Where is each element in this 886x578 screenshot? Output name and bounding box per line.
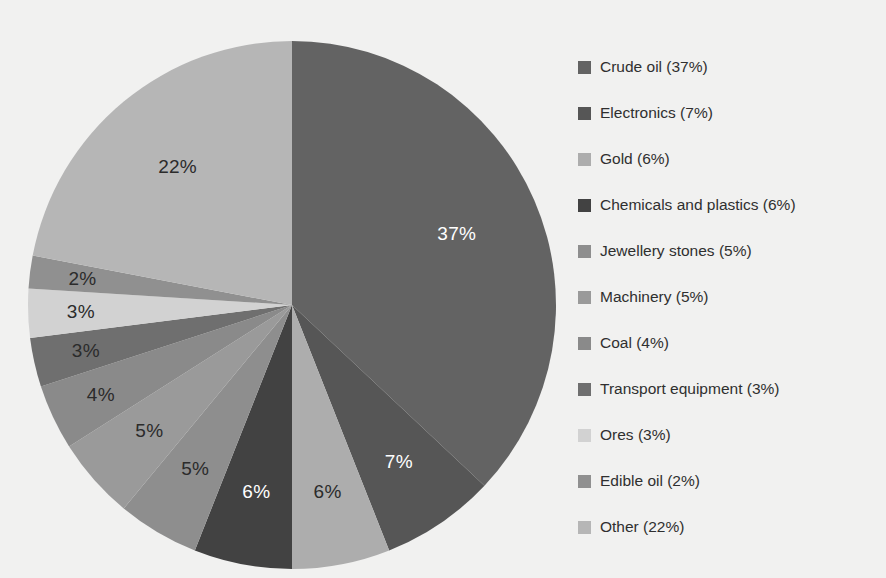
legend-item[interactable]: Electronics (7%) <box>578 90 878 136</box>
pie-slice-label: 3% <box>67 301 95 322</box>
legend-item[interactable]: Coal (4%) <box>578 320 878 366</box>
legend-item-label: Crude oil (37%) <box>600 59 708 75</box>
legend-swatch-icon <box>578 475 591 488</box>
legend-swatch-icon <box>578 337 591 350</box>
legend-item[interactable]: Jewellery stones (5%) <box>578 228 878 274</box>
legend-item[interactable]: Machinery (5%) <box>578 274 878 320</box>
legend-item[interactable]: Ores (3%) <box>578 412 878 458</box>
legend-item[interactable]: Transport equipment (3%) <box>578 366 878 412</box>
legend-swatch-icon <box>578 199 591 212</box>
pie-slice-label: 6% <box>242 481 270 502</box>
legend-item[interactable]: Other (22%) <box>578 504 878 550</box>
legend-swatch-icon <box>578 383 591 396</box>
pie-slice-label: 6% <box>314 481 342 502</box>
pie-slice-label: 5% <box>181 458 209 479</box>
pie-slice-label: 2% <box>68 268 96 289</box>
legend-item-label: Other (22%) <box>600 519 684 535</box>
legend-item-label: Machinery (5%) <box>600 289 709 305</box>
pie-slice-label: 22% <box>158 156 197 177</box>
legend-swatch-icon <box>578 153 591 166</box>
legend-item[interactable]: Gold (6%) <box>578 136 878 182</box>
legend-item-label: Jewellery stones (5%) <box>600 243 752 259</box>
legend-item-label: Transport equipment (3%) <box>600 381 779 397</box>
legend-swatch-icon <box>578 291 591 304</box>
pie-slice-label: 3% <box>72 340 100 361</box>
legend-swatch-icon <box>578 245 591 258</box>
legend-item-label: Electronics (7%) <box>600 105 713 121</box>
pie-svg: 37%7%6%6%5%5%4%3%3%2%22% <box>0 0 580 578</box>
pie-chart-figure: 37%7%6%6%5%5%4%3%3%2%22% Crude oil (37%)… <box>0 0 886 578</box>
legend-item-label: Chemicals and plastics (6%) <box>600 197 796 213</box>
legend-item[interactable]: Chemicals and plastics (6%) <box>578 182 878 228</box>
pie-slice-label: 7% <box>385 451 413 472</box>
legend-item-label: Ores (3%) <box>600 427 671 443</box>
legend-item[interactable]: Edible oil (2%) <box>578 458 878 504</box>
pie-slice-label: 37% <box>437 223 476 244</box>
legend-item[interactable]: Crude oil (37%) <box>578 44 878 90</box>
pie-slice-label: 4% <box>87 384 115 405</box>
legend-item-label: Edible oil (2%) <box>600 473 700 489</box>
pie-plot-area: 37%7%6%6%5%5%4%3%3%2%22% <box>0 0 580 578</box>
legend-item-label: Gold (6%) <box>600 151 670 167</box>
legend-item-label: Coal (4%) <box>600 335 669 351</box>
pie-slice-label: 5% <box>135 420 163 441</box>
legend-swatch-icon <box>578 61 591 74</box>
chart-legend: Crude oil (37%)Electronics (7%)Gold (6%)… <box>578 44 878 550</box>
legend-swatch-icon <box>578 521 591 534</box>
legend-swatch-icon <box>578 107 591 120</box>
legend-swatch-icon <box>578 429 591 442</box>
